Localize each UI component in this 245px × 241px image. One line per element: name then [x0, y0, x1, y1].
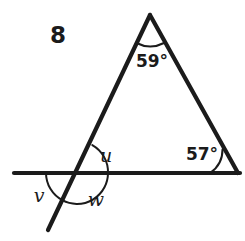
triangle-transversal-diagram: 8 59° 57° u v w	[0, 0, 245, 241]
angle-v-label: v	[34, 184, 45, 206]
angle-w-label: w	[88, 188, 104, 210]
right-base-angle-label: 57°	[186, 144, 218, 164]
angle-u-label: u	[100, 144, 112, 166]
apex-angle-label: 59°	[136, 51, 168, 71]
apex-angle-arc	[137, 43, 165, 46]
exercise-number: 8	[50, 22, 66, 48]
geometry-figure: 8 59° 57° u v w	[0, 0, 245, 241]
angle-v-arc	[46, 173, 62, 200]
